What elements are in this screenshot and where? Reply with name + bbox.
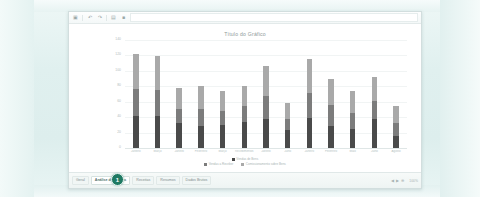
bar-column[interactable] [342,40,364,148]
bar-column[interactable] [255,40,277,148]
bar-segment[interactable] [372,119,378,148]
bold-icon[interactable]: ■ [120,14,127,21]
print-icon[interactable]: ▤ [110,14,117,21]
bar-segment[interactable] [350,91,356,113]
bar-column[interactable] [212,40,234,148]
bar-segment[interactable] [155,90,161,115]
legend-item[interactable]: Vendas de Bens [232,158,258,161]
sheet-tab-resumos[interactable]: Resumos [156,176,179,186]
x-axis-label: Julho [277,150,299,153]
prev-sheet-icon[interactable]: ◀ [391,179,394,183]
bar-segment[interactable] [285,103,291,119]
legend-label: Comissionamento sobre Bens [246,163,286,166]
y-axis-tick: 60 [117,100,121,103]
bar-segment[interactable] [372,101,378,120]
bar-segment[interactable] [220,91,226,111]
bar-segment[interactable] [176,109,182,124]
stacked-bar[interactable] [307,59,313,148]
bar-segment[interactable] [242,106,248,121]
legend-item[interactable]: Comissionamento sobre Bens [241,163,286,166]
save-icon[interactable]: ▣ [72,14,79,21]
stacked-bar[interactable] [350,91,356,148]
bar-segment[interactable] [242,86,248,106]
next-sheet-icon[interactable]: ▶ [396,179,399,183]
bar-segment[interactable] [176,88,182,109]
bar-column[interactable] [190,40,212,148]
sheet-tab-geral[interactable]: Geral [72,176,89,186]
bar-segment[interactable] [307,118,313,148]
stacked-bar[interactable] [133,54,139,148]
stacked-bar[interactable] [328,79,334,148]
bar-segment[interactable] [350,129,356,148]
x-axis-label: Janeiro [255,150,277,153]
bar-segment[interactable] [307,93,313,118]
redo-icon[interactable]: ↷ [96,14,103,21]
bar-segment[interactable] [263,119,269,148]
bar-segment[interactable] [285,119,291,130]
bar-segment[interactable] [220,111,226,125]
bar-segment[interactable] [307,59,313,93]
bar-segment[interactable] [220,125,226,148]
sheet-tab-dados-brutos[interactable]: Dados Brutos [182,176,212,186]
add-sheet-icon[interactable]: ⊕ [401,179,404,183]
x-axis-label: Janeiro [168,150,190,153]
bar-segment[interactable] [285,130,291,149]
bar-column[interactable] [168,40,190,148]
sheet-tab-receitas[interactable]: Receitas [132,176,154,186]
bar-segment[interactable] [133,116,139,148]
bar-segment[interactable] [393,136,399,148]
bar-segment[interactable] [176,123,182,148]
undo-icon[interactable]: ↶ [86,14,93,21]
bar-column[interactable] [320,40,342,148]
legend-row: Vendas a ReceberComissionamento sobre Be… [204,163,286,166]
bar-segment[interactable] [328,126,334,148]
bar-segment[interactable] [393,106,399,122]
stacked-bar[interactable] [198,86,204,148]
x-axis-label: Março [212,150,234,153]
bar-segment[interactable] [372,77,378,101]
stacked-bar[interactable] [263,66,269,148]
bar-column[interactable] [277,40,299,148]
chart-legend: Vendas de BensVendas a ReceberComissiona… [69,158,421,166]
chart-title: Título do Gráfico [69,24,421,37]
sheet-nav: ◀ ▶ ⊕ [391,179,404,183]
stacked-bar[interactable] [220,91,226,148]
bar-segment[interactable] [263,96,269,119]
y-axis-tick: 80 [117,85,121,88]
bar-segment[interactable] [198,86,204,109]
chart-y-axis: 140120100806040200 [107,40,123,148]
bar-segment[interactable] [350,113,356,129]
stacked-bar[interactable] [155,56,161,148]
zoom-level-label[interactable]: 100% [406,179,418,183]
desktop-left-shade [0,0,34,197]
bar-segment[interactable] [133,89,139,115]
bar-segment[interactable] [328,105,334,126]
stacked-bar[interactable] [285,103,291,148]
legend-item[interactable]: Vendas a Receber [204,163,233,166]
bar-column[interactable] [364,40,386,148]
stacked-bar[interactable] [393,106,399,148]
bar-segment[interactable] [155,56,161,90]
stacked-bar[interactable] [242,86,248,148]
bar-segment[interactable] [393,123,399,136]
y-axis-tick: 100 [115,69,121,72]
bar-column[interactable] [299,40,321,148]
status-badge[interactable]: 1 [111,173,124,186]
bar-column[interactable] [385,40,407,148]
y-axis-tick: 0 [119,146,121,149]
bar-segment[interactable] [133,54,139,89]
bar-segment[interactable] [198,109,204,126]
stacked-bar[interactable] [176,88,182,148]
bar-column[interactable] [233,40,255,148]
bar-segment[interactable] [242,122,248,148]
bar-column[interactable] [125,40,147,148]
formula-input[interactable] [130,13,418,22]
legend-swatch [241,163,244,166]
bar-segment[interactable] [155,116,161,148]
bar-segment[interactable] [263,66,269,96]
stacked-bar[interactable] [372,77,378,148]
legend-swatch [232,158,235,161]
bar-segment[interactable] [198,126,204,148]
bar-segment[interactable] [328,79,334,104]
bar-column[interactable] [147,40,169,148]
